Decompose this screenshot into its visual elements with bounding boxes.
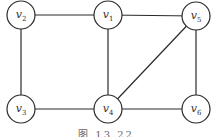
figure-caption: 图 13.22: [0, 126, 212, 137]
node-label-v3: v3: [7, 95, 35, 123]
node-label-v6: v6: [182, 95, 210, 123]
node-label-v1: v1: [94, 1, 122, 29]
node-label-v5: v5: [182, 2, 210, 30]
node-label-v2: v2: [7, 1, 35, 29]
node-label-v4: v4: [94, 95, 122, 123]
